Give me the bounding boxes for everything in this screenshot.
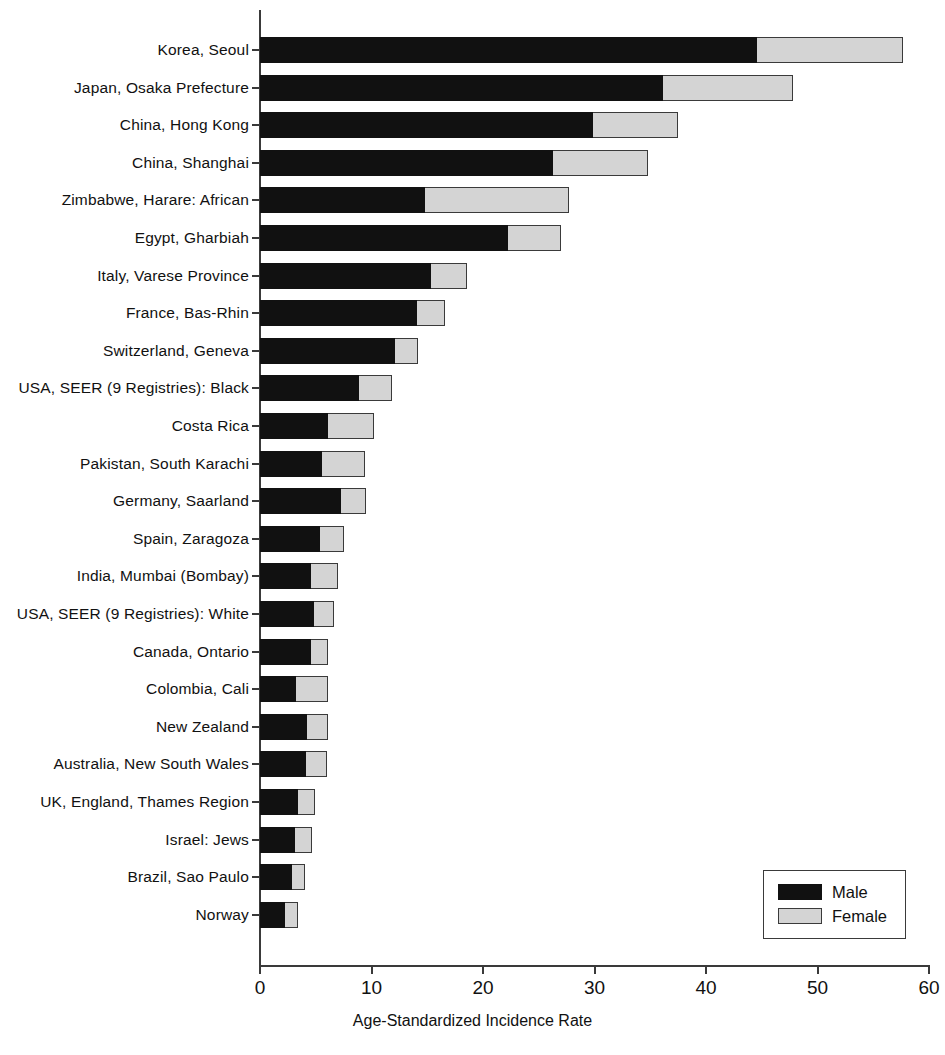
stacked-bar [260,827,312,853]
bar-segment-female [431,263,468,289]
plot-area: Korea, SeoulJapan, Osaka PrefectureChina… [260,10,929,965]
category-label: Spain, Zaragoza [0,526,260,552]
chart-row: Israel: Jews [260,827,929,853]
x-axis-tick [817,965,819,974]
x-axis-tick [928,965,930,974]
bar-segment-male [260,300,417,326]
bar-segment-female [295,827,313,853]
category-label: China, Hong Kong [0,112,260,138]
legend-swatch-male-icon [778,884,822,900]
x-axis-tick [705,965,707,974]
bar-segment-male [260,827,295,853]
bar-segment-female [306,751,327,777]
x-axis-tick-label: 40 [676,977,736,999]
bar-segment-male [260,676,296,702]
stacked-bar [260,601,334,627]
bar-segment-male [260,112,593,138]
chart-row: Zimbabwe, Harare: African [260,187,929,213]
bar-segment-male [260,413,328,439]
category-label: Pakistan, South Karachi [0,451,260,477]
bar-segment-female [417,300,445,326]
stacked-bar [260,375,392,401]
stacked-bar [260,488,366,514]
stacked-bar [260,338,418,364]
stacked-bar [260,789,315,815]
incidence-rate-bar-chart: Korea, SeoulJapan, Osaka PrefectureChina… [0,0,945,1055]
category-label: Egypt, Gharbiah [0,225,260,251]
category-label: Zimbabwe, Harare: African [0,187,260,213]
legend-item-female: Female [778,904,905,928]
stacked-bar [260,225,561,251]
chart-row: France, Bas-Rhin [260,300,929,326]
bar-segment-female [328,413,374,439]
legend-item-male: Male [778,880,905,904]
bar-segment-female [307,714,328,740]
x-axis-tick [594,965,596,974]
x-axis-tick-label: 10 [342,977,402,999]
stacked-bar [260,300,445,326]
chart-row: Spain, Zaragoza [260,526,929,552]
bar-segment-male [260,488,341,514]
legend-swatch-female-icon [778,908,822,924]
bar-segment-male [260,225,508,251]
stacked-bar [260,639,328,665]
bar-segment-female [298,789,315,815]
chart-row: China, Shanghai [260,150,929,176]
chart-row: Colombia, Cali [260,676,929,702]
bar-segment-female [322,451,364,477]
category-label: Germany, Saarland [0,488,260,514]
bar-segment-male [260,789,298,815]
bar-segment-female [663,75,793,101]
x-axis-tick [259,965,261,974]
legend-label-female: Female [832,908,887,925]
stacked-bar [260,263,467,289]
x-axis-tick-label: 20 [453,977,513,999]
stacked-bar [260,150,648,176]
bar-segment-male [260,150,553,176]
stacked-bar [260,451,365,477]
bar-segment-female [553,150,648,176]
stacked-bar [260,751,327,777]
stacked-bar [260,864,305,890]
stacked-bar [260,187,569,213]
chart-row: Egypt, Gharbiah [260,225,929,251]
bar-segment-female [311,639,328,665]
bar-segment-female [314,601,334,627]
chart-row: India, Mumbai (Bombay) [260,563,929,589]
category-label: France, Bas-Rhin [0,300,260,326]
bar-segment-male [260,75,663,101]
category-label: Norway [0,902,260,928]
bar-segment-male [260,37,757,63]
stacked-bar [260,563,338,589]
category-label: Japan, Osaka Prefecture [0,75,260,101]
x-axis-tick [371,965,373,974]
chart-row: China, Hong Kong [260,112,929,138]
bar-segment-female [395,338,418,364]
category-label: Italy, Varese Province [0,263,260,289]
bar-segment-female [359,375,391,401]
bar-segment-female [341,488,366,514]
category-label: Costa Rica [0,413,260,439]
stacked-bar [260,413,374,439]
chart-row: Australia, New South Wales [260,751,929,777]
x-axis-tick-label: 60 [899,977,945,999]
stacked-bar [260,37,903,63]
bar-segment-male [260,563,311,589]
bar-segment-female [320,526,343,552]
category-label: UK, England, Thames Region [0,789,260,815]
chart-row: Switzerland, Geneva [260,338,929,364]
chart-legend: Male Female [763,870,906,939]
bar-segment-female [296,676,328,702]
bar-segment-female [425,187,569,213]
x-axis-title: Age-Standardized Incidence Rate [0,1012,945,1030]
category-label: USA, SEER (9 Registries): Black [0,375,260,401]
bar-segment-female [593,112,678,138]
bar-segment-male [260,338,395,364]
chart-row: USA, SEER (9 Registries): White [260,601,929,627]
category-label: China, Shanghai [0,150,260,176]
chart-row: Costa Rica [260,413,929,439]
category-label: USA, SEER (9 Registries): White [0,601,260,627]
category-label: Colombia, Cali [0,676,260,702]
chart-row: UK, England, Thames Region [260,789,929,815]
bar-segment-female [292,864,304,890]
